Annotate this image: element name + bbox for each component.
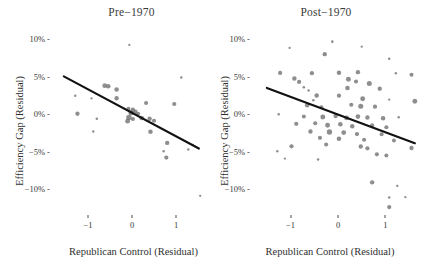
scatter-point — [388, 196, 391, 199]
x-tick-label: 1 — [174, 220, 178, 230]
scatter-point — [74, 95, 76, 97]
scatter-point — [378, 87, 382, 91]
scatter-point — [317, 158, 320, 161]
y-tick-label: 10% — [229, 34, 245, 44]
scatter-point — [409, 73, 413, 77]
scatter-point — [356, 70, 360, 74]
x-tick-mark — [385, 215, 386, 218]
y-tick-mark: - — [247, 147, 250, 157]
scatter-point — [354, 79, 358, 83]
scatter-point — [325, 123, 330, 128]
scatter-point — [358, 104, 363, 109]
x-tick-label: −1 — [83, 220, 92, 230]
x-tick-label: 1 — [383, 220, 387, 230]
y-tick-label: 0% — [234, 109, 245, 119]
panel-title-pre-1970: Pre−1970 — [0, 6, 237, 18]
scatter-point — [289, 144, 293, 148]
plot-area-post-1970: 10%-5%-0%-−5%-−10%-−101 — [255, 28, 421, 212]
scatter-point — [294, 122, 298, 126]
scatter-canvas-post-1970 — [255, 28, 421, 212]
scatter-point — [312, 99, 315, 102]
scatter-point — [397, 116, 400, 119]
scatter-point — [162, 150, 165, 153]
scatter-point — [412, 99, 417, 104]
panel-title-post-1970: Post−1970 — [211, 6, 421, 18]
scatter-point — [278, 71, 282, 75]
y-tick-mark: - — [47, 34, 50, 44]
scatter-point — [128, 44, 130, 46]
y-tick-label: 5% — [234, 72, 245, 82]
scatter-point — [125, 119, 130, 124]
scatter-point — [313, 121, 317, 125]
x-tick-mark — [88, 215, 89, 218]
scatter-point — [180, 76, 183, 79]
scatter-point — [409, 146, 413, 150]
y-tick-mark: - — [247, 34, 250, 44]
scatter-point — [356, 114, 361, 119]
scatter-point — [331, 40, 334, 43]
panel-pre-1970: Pre−1970 Efficiency Gap (Residual) 10%-5… — [0, 0, 211, 262]
scatter-point — [392, 139, 396, 143]
scatter-point — [292, 76, 296, 80]
scatter-point — [324, 143, 328, 147]
scatter-point — [380, 132, 384, 136]
scatter-point — [337, 94, 341, 98]
x-tick-mark — [132, 215, 133, 218]
y-tick-label: 0% — [34, 109, 45, 119]
plot-area-pre-1970: 10%-5%-0%-−5%-−10%-−101 — [55, 28, 209, 212]
x-axis-title: Republican Control (Residual) — [211, 246, 421, 257]
scatter-point — [349, 103, 353, 107]
x-tick-mark — [338, 215, 339, 218]
scatter-point — [381, 116, 385, 120]
scatter-point — [320, 115, 325, 120]
scatter-point — [367, 81, 372, 86]
scatter-point — [323, 52, 327, 56]
x-tick-label: 0 — [336, 220, 340, 230]
scatter-point — [106, 84, 111, 89]
panel-post-1970: Post−1970 Efficiency Gap (Residual) 10%-… — [211, 0, 421, 262]
x-tick-mark — [176, 215, 177, 218]
scatter-point — [396, 185, 398, 187]
scatter-point — [144, 101, 148, 105]
scatter-point — [92, 130, 94, 132]
scatter-point — [164, 155, 168, 159]
scatter-point — [388, 99, 390, 101]
scatter-point — [284, 157, 286, 159]
scatter-point — [276, 150, 278, 152]
scatter-point — [314, 93, 318, 97]
scatter-point — [165, 141, 169, 145]
scatter-point — [365, 115, 369, 119]
y-tick-mark: - — [247, 109, 250, 119]
scatter-point — [187, 148, 189, 150]
scatter-point — [346, 77, 351, 82]
y-tick-label: 10% — [29, 34, 45, 44]
y-tick-mark: - — [47, 72, 50, 82]
y-tick-mark: - — [247, 72, 250, 82]
scatter-point — [345, 86, 350, 91]
scatter-point — [318, 136, 322, 140]
scatter-point — [341, 130, 346, 135]
scatter-point — [373, 105, 377, 109]
scatter-point — [375, 152, 379, 156]
figure-container: Pre−1970 Efficiency Gap (Residual) 10%-5… — [0, 0, 421, 262]
x-tick-label: −1 — [286, 220, 295, 230]
scatter-point — [297, 80, 301, 84]
scatter-canvas-pre-1970 — [55, 28, 209, 212]
scatter-point — [131, 117, 135, 121]
y-tick-mark: - — [47, 147, 50, 157]
scatter-point — [388, 57, 391, 60]
scatter-point — [278, 113, 280, 115]
scatter-point — [359, 144, 363, 148]
scatter-point — [404, 196, 406, 198]
scatter-point — [172, 102, 176, 106]
scatter-point — [362, 138, 366, 142]
y-tick-mark: - — [47, 184, 50, 194]
scatter-point — [302, 114, 306, 118]
x-tick-label: 0 — [130, 220, 134, 230]
scatter-point — [310, 71, 314, 75]
y-tick-label: −5% — [229, 147, 245, 157]
y-tick-label: −10% — [25, 184, 45, 194]
scatter-point — [384, 125, 388, 129]
scatter-point — [96, 117, 99, 120]
scatter-point — [199, 195, 201, 197]
